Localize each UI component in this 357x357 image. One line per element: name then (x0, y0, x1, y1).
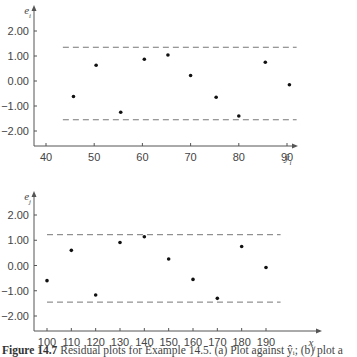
y-axis-arrow-icon (32, 191, 37, 197)
data-point (216, 297, 220, 301)
y-tick-label: 1.00 (8, 50, 29, 62)
y-tick-label: −2.00 (1, 310, 29, 322)
residual-plots-figure: 2.001.000.00−1.00−2.00405060708090eiŷi 2… (0, 0, 357, 357)
data-point (214, 95, 218, 99)
data-point (167, 257, 171, 261)
figure-caption-text: Residual plots for Example 14.5. (a) Plo… (60, 344, 343, 356)
data-point (166, 53, 170, 57)
y-tick-label: −1.00 (1, 285, 29, 297)
data-point (191, 278, 195, 282)
data-point (94, 63, 98, 67)
data-point (288, 83, 292, 87)
y-tick-label: 0.00 (8, 260, 29, 272)
y-tick-label: 0.00 (8, 75, 29, 87)
figure-label: Figure 14.7 (2, 344, 57, 356)
y-axis-label: ei (24, 4, 31, 20)
data-point (72, 95, 76, 99)
x-tick-label: 40 (40, 151, 52, 163)
data-point (240, 245, 244, 249)
x-tick-label: 60 (136, 151, 148, 163)
figure-caption: Figure 14.7 Residual plots for Example 1… (2, 344, 343, 356)
data-point (119, 110, 123, 114)
data-point (143, 57, 147, 61)
data-point (264, 60, 268, 64)
y-tick-label: −2.00 (1, 125, 29, 137)
data-point (94, 293, 98, 297)
data-point (118, 241, 122, 245)
y-tick-label: 2.00 (8, 25, 29, 37)
residual-plot-a: 2.001.000.00−1.00−2.00405060708090eiŷi (1, 4, 298, 167)
x-tick-label: 80 (233, 151, 245, 163)
data-point (264, 266, 268, 270)
x-axis-arrow-icon (316, 329, 322, 334)
data-point (70, 249, 74, 253)
y-axis-arrow-icon (32, 5, 37, 11)
residual-plot-b: 2.001.000.00−1.00−2.00100110120130140150… (1, 190, 322, 352)
data-point (45, 279, 49, 283)
x-axis-arrow-icon (292, 144, 298, 149)
data-point (237, 114, 241, 118)
x-tick-label: 70 (184, 151, 196, 163)
x-tick-label: 50 (88, 151, 100, 163)
y-tick-label: 2.00 (8, 209, 29, 221)
y-tick-label: −1.00 (1, 100, 29, 112)
y-axis-label: ej (24, 190, 31, 206)
data-point (189, 74, 193, 78)
data-point (143, 235, 147, 239)
y-tick-label: 1.00 (8, 234, 29, 246)
